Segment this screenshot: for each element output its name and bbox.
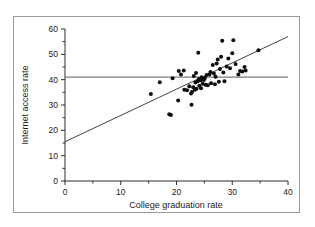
data-point <box>220 39 224 43</box>
data-point <box>182 69 186 73</box>
data-point <box>158 80 162 84</box>
data-point <box>236 73 240 77</box>
data-point <box>231 38 235 42</box>
data-point <box>169 113 173 117</box>
data-point <box>149 92 153 96</box>
data-point <box>244 69 248 73</box>
data-point <box>243 65 247 69</box>
y-axis-ticks <box>61 29 65 181</box>
data-point <box>215 61 219 65</box>
data-point <box>226 56 230 60</box>
data-point <box>218 67 222 71</box>
data-point <box>228 66 232 70</box>
data-point <box>177 69 181 73</box>
scatter-plot: 0102030405060 010203040 College graduati… <box>14 17 299 212</box>
x-tick-label: 20 <box>172 187 182 197</box>
y-tick-label: 30 <box>49 100 59 110</box>
chart-figure: 0102030405060 010203040 College graduati… <box>13 16 300 213</box>
y-tick-label: 0 <box>53 176 58 186</box>
y-axis-tick-labels: 0102030405060 <box>49 24 59 186</box>
data-point <box>213 82 217 86</box>
x-axis-title: College graduation rate <box>129 200 223 210</box>
data-point <box>187 84 191 88</box>
data-point <box>176 98 180 102</box>
data-point <box>209 81 213 85</box>
y-tick-label: 20 <box>49 125 59 135</box>
x-tick-label: 0 <box>63 187 68 197</box>
x-axis-tick-labels: 010203040 <box>63 187 293 197</box>
data-point <box>195 87 199 91</box>
data-point <box>234 62 238 66</box>
data-point <box>199 86 203 90</box>
data-point <box>211 63 215 67</box>
data-point <box>219 55 223 59</box>
y-tick-label: 50 <box>49 49 59 59</box>
data-point <box>171 76 175 80</box>
data-point <box>221 71 225 75</box>
y-tick-label: 40 <box>49 75 59 85</box>
data-point <box>185 88 189 92</box>
data-point <box>217 80 221 84</box>
data-point <box>222 79 226 83</box>
y-axis-title: Internet access rate <box>20 65 30 144</box>
y-tick-label: 60 <box>49 24 59 34</box>
x-axis-ticks <box>65 181 288 185</box>
axes-group <box>65 29 288 181</box>
x-tick-label: 30 <box>228 187 238 197</box>
data-point <box>196 51 200 55</box>
data-point <box>214 75 218 79</box>
data-point <box>179 73 183 77</box>
data-point <box>206 83 210 87</box>
data-point <box>216 57 220 61</box>
x-tick-label: 10 <box>116 187 126 197</box>
data-point <box>194 71 198 75</box>
data-point <box>256 48 260 52</box>
top-margin-strip <box>0 0 315 9</box>
data-point <box>230 51 234 55</box>
x-tick-label: 40 <box>283 187 293 197</box>
data-point <box>190 103 194 107</box>
regression-line <box>65 37 288 142</box>
y-tick-label: 10 <box>49 151 59 161</box>
